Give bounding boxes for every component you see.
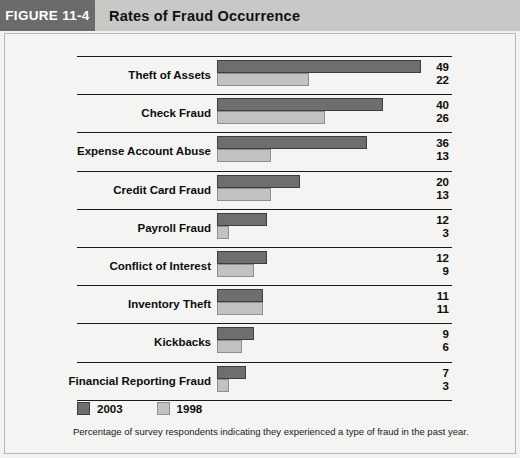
- figure-container: FIGURE 11-4 Rates of Fraud Occurrence Th…: [0, 0, 520, 458]
- value-label-1998: 11: [421, 303, 449, 315]
- value-label-2003: 7: [421, 367, 449, 379]
- row-separator: [77, 400, 452, 401]
- legend-item-2003: 2003: [77, 402, 123, 415]
- figure-number-label: FIGURE 11-4: [5, 8, 89, 23]
- row-separator: [77, 209, 452, 210]
- row-separator: [77, 285, 452, 286]
- value-label-2003: 11: [421, 290, 449, 302]
- bar-2003: [217, 289, 263, 302]
- category-label: Theft of Assets: [5, 69, 211, 81]
- chart-panel: Theft of Assets4922Check Fraud4026Expens…: [4, 33, 516, 454]
- chart-caption: Percentage of survey respondents indicat…: [73, 426, 473, 438]
- value-label-2003: 9: [421, 328, 449, 340]
- bar-2003: [217, 327, 254, 340]
- value-label-2003: 12: [421, 252, 449, 264]
- legend-swatch-icon-2003: [77, 402, 90, 415]
- figure-header: FIGURE 11-4 Rates of Fraud Occurrence: [0, 0, 520, 31]
- category-label: Financial Reporting Fraud: [5, 375, 211, 387]
- category-label: Check Fraud: [5, 107, 211, 119]
- value-label-1998: 26: [421, 112, 449, 124]
- bar-1998: [217, 379, 229, 392]
- value-label-1998: 13: [421, 150, 449, 162]
- value-label-2003: 36: [421, 137, 449, 149]
- legend-label-2003: 2003: [97, 403, 123, 415]
- figure-title-bar: Rates of Fraud Occurrence: [95, 0, 520, 31]
- category-label: Credit Card Fraud: [5, 184, 211, 196]
- figure-number-badge: FIGURE 11-4: [0, 0, 95, 31]
- row-separator: [77, 247, 452, 248]
- bar-2003: [217, 60, 421, 73]
- row-separator: [77, 362, 452, 363]
- value-label-1998: 3: [421, 227, 449, 239]
- legend-swatch-icon-1998: [157, 402, 170, 415]
- category-label: Inventory Theft: [5, 298, 211, 310]
- value-label-2003: 20: [421, 176, 449, 188]
- bar-1998: [217, 188, 271, 201]
- value-label-1998: 13: [421, 189, 449, 201]
- row-separator: [77, 171, 452, 172]
- bar-1998: [217, 264, 254, 277]
- row-separator: [77, 132, 452, 133]
- row-separator: [77, 56, 452, 57]
- page-title: Rates of Fraud Occurrence: [109, 8, 300, 24]
- value-label-1998: 6: [421, 341, 449, 353]
- bar-chart-plot: Theft of Assets4922Check Fraud4026Expens…: [5, 34, 517, 455]
- bar-2003: [217, 175, 300, 188]
- bar-1998: [217, 111, 325, 124]
- category-label: Payroll Fraud: [5, 222, 211, 234]
- bar-2003: [217, 251, 267, 264]
- bar-1998: [217, 302, 263, 315]
- row-separator: [77, 323, 452, 324]
- bar-2003: [217, 136, 367, 149]
- bar-2003: [217, 366, 246, 379]
- category-label: Conflict of Interest: [5, 260, 211, 272]
- category-label: Kickbacks: [5, 336, 211, 348]
- bar-1998: [217, 149, 271, 162]
- bar-1998: [217, 226, 229, 239]
- bar-1998: [217, 340, 242, 353]
- bar-1998: [217, 73, 309, 86]
- value-label-2003: 40: [421, 99, 449, 111]
- legend-label-1998: 1998: [177, 403, 203, 415]
- row-separator: [77, 94, 452, 95]
- bar-2003: [217, 98, 383, 111]
- value-label-2003: 12: [421, 214, 449, 226]
- value-label-2003: 49: [421, 61, 449, 73]
- category-label: Expense Account Abuse: [5, 145, 211, 157]
- value-label-1998: 3: [421, 380, 449, 392]
- bar-2003: [217, 213, 267, 226]
- chart-legend: 2003 1998: [77, 402, 236, 415]
- value-label-1998: 9: [421, 265, 449, 277]
- legend-item-1998: 1998: [157, 402, 203, 415]
- value-label-1998: 22: [421, 74, 449, 86]
